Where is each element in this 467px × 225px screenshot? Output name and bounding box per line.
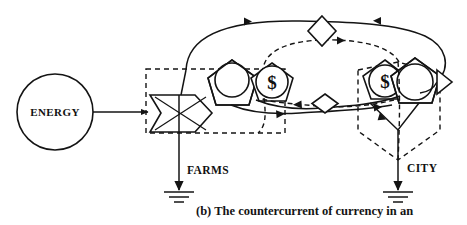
transaction-diamond-mid — [312, 94, 338, 113]
goods-inflow-to-interaction — [181, 70, 186, 95]
money-dashed-link-farms — [258, 98, 265, 133]
farms-label: FARMS — [187, 164, 229, 176]
transaction-diamond-top — [308, 16, 336, 46]
figure-caption: (b) The countercurrent of currency in an — [196, 204, 413, 218]
farms-producer-pentagon — [208, 60, 257, 105]
city-internal-flows — [370, 103, 419, 191]
city-label: CITY — [407, 162, 438, 174]
odum-energy-systems-diagram: ENERGY $ $ — [0, 0, 467, 225]
heat-sink-city — [383, 192, 413, 202]
heat-sink-farms — [164, 192, 194, 202]
flow-goods-farms-to-city-mid — [231, 103, 392, 118]
energy-source-label: ENERGY — [30, 106, 79, 118]
city-dollar-label: $ — [380, 71, 390, 92]
farms-dollar-label: $ — [267, 72, 277, 93]
interaction-symbol — [150, 95, 212, 132]
